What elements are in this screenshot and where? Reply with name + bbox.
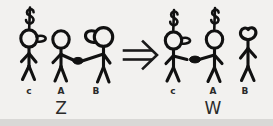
dollar-sign-icon-left-c [26, 8, 34, 29]
label-group-z: Z [55, 100, 67, 117]
stick-figure-drawing [0, 0, 273, 126]
right-figure-c [165, 10, 190, 81]
label-left-figure-c: c [26, 87, 32, 96]
right-figure-b [240, 28, 255, 81]
dollar-sign-icon-right-c [170, 10, 177, 30]
label-right-figure-a: A [209, 87, 216, 96]
label-group-w: W [205, 100, 222, 117]
label-right-figure-c: c [170, 87, 176, 96]
diagram-canvas: c A B Z c A B W [0, 0, 273, 126]
label-left-figure-a: A [57, 87, 64, 96]
label-left-figure-b: B [92, 87, 99, 96]
left-figure-a [53, 31, 75, 81]
right-figure-a [199, 8, 223, 82]
label-right-figure-b: B [241, 87, 248, 96]
implies-arrow-icon [124, 42, 157, 69]
left-figure-c [21, 8, 46, 80]
dollar-sign-icon-right-a [211, 8, 218, 29]
left-figure-b [82, 28, 113, 82]
